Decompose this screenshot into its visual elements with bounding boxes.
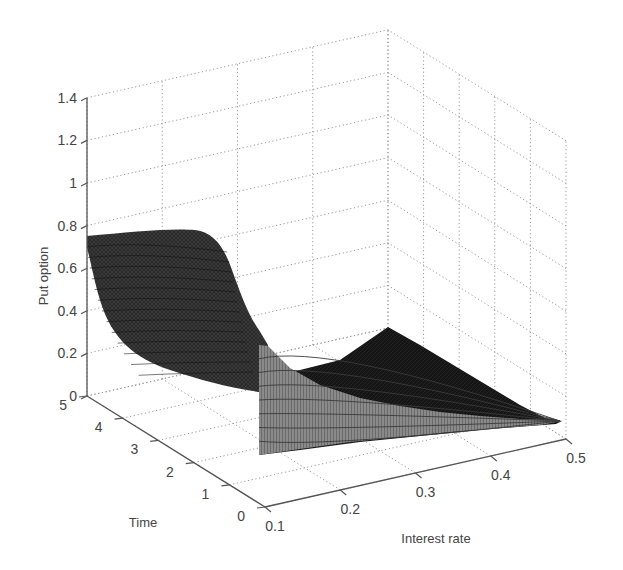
surface-plot: 00.20.40.60.811.21.40123450.10.20.30.40.… [0,0,623,570]
time-tick-label: 5 [59,397,67,413]
time-axis [87,396,265,507]
z-tick-label: 0.2 [58,345,78,361]
time-tick [150,440,158,441]
rate-axis-label: Interest rate [401,531,470,546]
time-tick [221,485,229,486]
z-tick [81,353,87,356]
time-tick [186,463,194,464]
z-tick-label: 1.4 [58,90,78,106]
grid-line [388,30,566,141]
time-tick-label: 1 [202,486,210,502]
z-tick [81,183,87,186]
grid-line [388,243,566,354]
rate-tick [491,456,497,461]
time-tick-label: 0 [237,508,245,524]
grid-line [388,200,566,311]
grid-line [388,72,566,183]
rate-tick [416,473,422,478]
grid-line [388,115,566,226]
time-tick [257,507,265,508]
grid-line [388,158,566,269]
rate-tick [566,439,572,444]
rate-tick-label: 0.4 [491,467,511,483]
time-tick-label: 2 [166,464,174,480]
z-tick [81,98,87,101]
time-tick-label: 3 [130,441,138,457]
z-tick [81,140,87,143]
rate-tick [265,507,271,512]
rate-tick-label: 0.5 [566,450,586,466]
rate-tick [340,490,346,495]
surface-s-curve [87,229,268,392]
z-tick [81,311,87,314]
rate-tick-label: 0.2 [341,501,361,517]
rate-tick-label: 0.1 [265,518,285,534]
z-tick [81,268,87,271]
z-tick [81,226,87,229]
z-tick-label: 1.2 [58,132,78,148]
z-tick-label: 0.8 [58,218,78,234]
z-tick-label: 0.6 [58,260,78,276]
time-axis-label: Time [129,515,157,530]
time-tick-label: 4 [95,419,103,435]
rate-tick-label: 0.3 [416,484,436,500]
z-axis-label: Put option [36,247,51,306]
time-tick [115,418,123,419]
z-tick-label: 0 [69,388,77,404]
z-tick-label: 1 [69,175,77,191]
z-tick-label: 0.4 [58,303,78,319]
